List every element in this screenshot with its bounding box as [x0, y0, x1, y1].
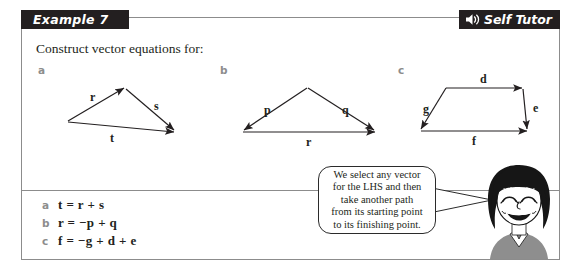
speech-bubble-line: to its finishing point. — [333, 219, 421, 232]
answers-list: a t = r + s b r = −p + q c f = −g + d + … — [42, 197, 137, 251]
example-card: Example 7 Self Tutor Construct vector eq… — [0, 0, 581, 279]
answer-key: b — [42, 217, 58, 229]
speech-bubble: We select any vector for the LHS and the… — [318, 166, 436, 234]
answer-equation: r = −p + q — [58, 215, 117, 231]
speech-bubble-line: We select any vector — [334, 169, 421, 182]
vector-label-r: r — [306, 135, 312, 149]
vector-diagram-b: p q r — [226, 72, 391, 150]
vector-diagram-a: r s t — [44, 72, 204, 150]
example-title: Example 7 — [21, 10, 129, 29]
vector-label-s: s — [154, 99, 159, 113]
answer-key: c — [42, 235, 58, 247]
answer-row: a t = r + s — [42, 197, 137, 213]
speech-bubble-line: for the LHS and then — [333, 181, 422, 194]
answer-equation: f = −g + d + e — [58, 233, 137, 249]
vector-label-e: e — [533, 101, 539, 115]
self-tutor-label: Self Tutor — [484, 12, 552, 27]
vector-label-f: f — [472, 134, 477, 148]
vector-label-d: d — [480, 72, 487, 86]
vector-label-r: r — [90, 90, 96, 104]
card-header: Example 7 Self Tutor — [21, 10, 560, 29]
question-prompt: Construct vector equations for: — [36, 41, 204, 57]
speech-bubble-line: take another path — [341, 194, 413, 207]
vector-label-q: q — [342, 103, 349, 117]
vector-label-g: g — [423, 102, 429, 116]
answer-equation: t = r + s — [58, 197, 104, 213]
answer-row: b r = −p + q — [42, 215, 137, 231]
speaker-icon — [465, 13, 480, 26]
answer-row: c f = −g + d + e — [42, 233, 137, 249]
self-tutor-button[interactable]: Self Tutor — [459, 10, 560, 29]
cartoon-girl-illustration — [476, 161, 562, 259]
answer-key: a — [42, 199, 58, 211]
speech-bubble-line: from its starting point — [331, 206, 422, 219]
vector-label-p: p — [264, 103, 271, 117]
vector-diagram-c: g d e f — [400, 72, 550, 150]
vector-label-t: t — [110, 131, 114, 145]
